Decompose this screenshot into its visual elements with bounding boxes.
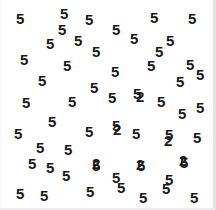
distractor-glyph-5: 5 bbox=[60, 6, 68, 21]
distractor-glyph-5: 5 bbox=[155, 44, 163, 59]
distractor-glyph-5: 5 bbox=[46, 160, 54, 175]
distractor-glyph-5: 5 bbox=[139, 190, 147, 205]
distractor-glyph-5: 5 bbox=[190, 190, 198, 205]
distractor-glyph-5: 5 bbox=[150, 10, 158, 25]
distractor-glyph-5: 5 bbox=[14, 126, 22, 141]
distractor-glyph-5: 5 bbox=[40, 188, 48, 203]
distractor-glyph-5: 5 bbox=[48, 114, 56, 129]
distractor-glyph-5: 5 bbox=[130, 31, 138, 46]
distractor-glyph-5: 5 bbox=[108, 90, 116, 105]
distractor-glyph-5: 5 bbox=[22, 95, 30, 110]
distractor-glyph-5: 5 bbox=[86, 184, 94, 199]
distractor-glyph-5: 5 bbox=[28, 156, 36, 171]
distractor-glyph-5: 5 bbox=[90, 80, 98, 95]
distractor-glyph-5: 5 bbox=[16, 11, 24, 26]
distractor-glyph-5: 5 bbox=[111, 64, 119, 79]
distractor-glyph-5: 5 bbox=[38, 73, 46, 88]
distractor-glyph-5: 5 bbox=[68, 94, 76, 109]
distractor-glyph-5: 5 bbox=[186, 57, 194, 72]
distractor-glyph-5: 5 bbox=[92, 44, 100, 59]
distractor-glyph-5: 5 bbox=[58, 22, 66, 37]
target-glyph-2[interactable]: 2 bbox=[164, 133, 172, 148]
distractor-glyph-5: 5 bbox=[85, 124, 93, 139]
distractor-glyph-5: 5 bbox=[46, 36, 54, 51]
target-glyph-2[interactable]: 2 bbox=[136, 157, 144, 172]
visual-search-canvas: 5555555555555555555555555555555555555555… bbox=[0, 0, 216, 210]
distractor-glyph-5: 5 bbox=[157, 94, 165, 109]
distractor-glyph-5: 5 bbox=[62, 168, 70, 183]
distractor-glyph-5: 5 bbox=[147, 58, 155, 73]
distractor-glyph-5: 5 bbox=[64, 142, 72, 157]
distractor-glyph-5: 5 bbox=[74, 33, 82, 48]
distractor-glyph-5: 5 bbox=[188, 11, 196, 26]
distractor-glyph-5: 5 bbox=[117, 180, 125, 195]
target-glyph-2[interactable]: 2 bbox=[92, 156, 100, 171]
target-glyph-2[interactable]: 2 bbox=[113, 122, 121, 137]
distractor-glyph-5: 5 bbox=[63, 58, 71, 73]
distractor-glyph-5: 5 bbox=[132, 126, 140, 141]
target-glyph-2[interactable]: 2 bbox=[136, 89, 144, 104]
distractor-glyph-5: 5 bbox=[36, 140, 44, 155]
distractor-glyph-5: 5 bbox=[178, 106, 186, 121]
distractor-glyph-5: 5 bbox=[196, 67, 204, 82]
distractor-glyph-5: 5 bbox=[112, 22, 120, 37]
distractor-glyph-5: 5 bbox=[193, 130, 201, 145]
distractor-glyph-5: 5 bbox=[196, 100, 204, 115]
distractor-glyph-5: 5 bbox=[162, 181, 170, 196]
distractor-glyph-5: 5 bbox=[166, 33, 174, 48]
distractor-glyph-5: 5 bbox=[20, 52, 28, 67]
target-glyph-2[interactable]: 2 bbox=[179, 153, 187, 168]
distractor-glyph-5: 5 bbox=[85, 12, 93, 27]
distractor-glyph-5: 5 bbox=[176, 74, 184, 89]
distractor-glyph-5: 5 bbox=[16, 186, 24, 201]
